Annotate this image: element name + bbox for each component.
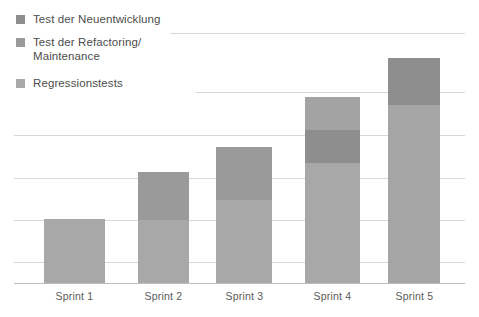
bar-sprint-4 [305,97,360,283]
x-axis-label-sprint-3: Sprint 3 [209,290,280,302]
bar-segment-neuentwicklung [305,97,360,130]
bar-segment-regressionstests [305,163,360,283]
bar-segment-refactoring [138,172,189,220]
x-axis-label-sprint-4: Sprint 4 [297,290,368,302]
x-axis-line [14,283,465,284]
legend-swatch-icon [16,15,25,24]
bar-segment-neuentwicklung [388,58,440,105]
bar-segment-regressionstests [44,219,105,283]
bar-segment-refactoring [305,130,360,163]
stacked-bar-chart: Test der Neuentwicklung Test der Refacto… [0,0,479,317]
bar-segment-regressionstests [216,200,272,283]
bar-segment-regressionstests [388,105,440,283]
bar-sprint-3 [216,147,272,283]
x-axis-label-sprint-1: Sprint 1 [39,290,110,302]
legend-item-refactoring: Test der Refactoring/ Maintenance [16,35,226,63]
bar-sprint-2 [138,172,189,283]
legend-item-label: Regressionstests [33,76,123,90]
legend-item-label: Test der Neuentwicklung [33,12,161,26]
legend-swatch-icon [16,79,25,88]
x-axis-label-sprint-2: Sprint 2 [128,290,199,302]
bar-segment-refactoring [216,147,272,200]
x-axis-label-sprint-5: Sprint 5 [379,290,450,302]
legend-item-regressionstests: Regressionstests [16,76,226,90]
legend-item-neuentwicklung: Test der Neuentwicklung [16,12,226,26]
bar-sprint-5 [388,58,440,283]
legend-item-label: Test der Refactoring/ Maintenance [33,35,141,63]
bar-sprint-1 [44,219,105,283]
bar-segment-regressionstests [138,220,189,283]
chart-legend: Test der Neuentwicklung Test der Refacto… [16,12,226,99]
legend-swatch-icon [16,38,25,47]
